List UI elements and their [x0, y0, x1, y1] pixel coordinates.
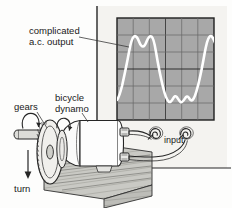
- label-gears: gears: [14, 101, 38, 112]
- label-dynamo-line2: dynamo: [55, 103, 89, 114]
- gear-hub: [47, 145, 54, 159]
- oscilloscope-screen: [117, 18, 218, 120]
- axle-end-cap: [14, 130, 18, 139]
- gear-wheel-small: [57, 130, 67, 168]
- figure-container: complicated a.c. output gears bicycle dy…: [0, 0, 232, 208]
- label-dynamo-line1: bicycle: [55, 92, 84, 103]
- label-output-line2: a.c. output: [29, 36, 74, 47]
- dynamo-terminal-bottom[interactable]: [120, 153, 129, 161]
- label-input: input: [164, 135, 184, 145]
- dynamo-barrel: [80, 121, 118, 167]
- bicycle-dynamo: [62, 121, 129, 173]
- dynamo-terminal-top[interactable]: [120, 128, 129, 136]
- dynamo-foot: [96, 166, 112, 172]
- bicycle-dynamo-oscilloscope-diagram: complicated a.c. output gears bicycle dy…: [0, 0, 232, 208]
- label-turn: turn: [14, 183, 30, 194]
- label-output-line1: complicated: [29, 25, 80, 36]
